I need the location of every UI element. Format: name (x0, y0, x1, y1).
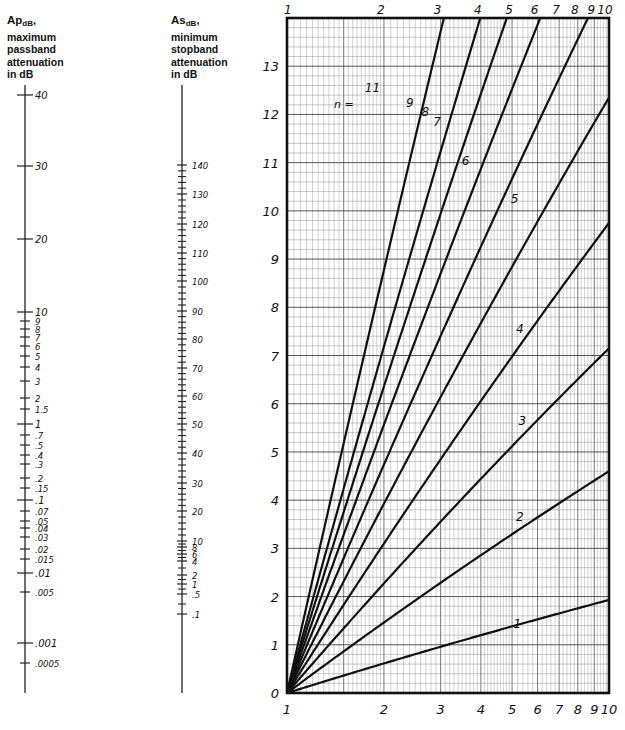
stopband-tick-label: 120 (192, 220, 208, 230)
passband-attenuation-scale: 40302010987654321.51.7.5.4.3.2.15.1.07.0… (17, 85, 59, 693)
passband-tick-label: .5 (35, 441, 43, 451)
y-tick-label: 4 (271, 493, 279, 508)
y-tick-label: 11 (262, 156, 279, 171)
passband-tick-label: .7 (35, 431, 44, 441)
y-tick-label: 6 (271, 397, 279, 412)
curve-label-n-1: 1 (513, 617, 521, 631)
x-bottom-tick-label: 1 (283, 702, 291, 717)
x-top-tick-label: 5 (505, 3, 513, 17)
curve-label-n-9: 9 (406, 96, 414, 110)
curve-label-n-11: 11 (365, 81, 380, 95)
curve-n-4 (287, 223, 609, 693)
stopband-tick-label: 90 (192, 307, 203, 317)
passband-tick-label: .015 (35, 555, 54, 565)
passband-tick-label: .02 (35, 545, 49, 555)
passband-tick-label: 4 (35, 363, 40, 373)
passband-tick-label: .001 (35, 638, 57, 649)
x-bottom-tick-label: 2 (380, 702, 388, 717)
x-top-tick-label: 6 (531, 3, 539, 17)
x-top-tick-label: 2 (377, 3, 385, 17)
x-bottom-tick-label: 9 (590, 702, 598, 717)
x-top-tick-label: 1 (284, 3, 292, 17)
y-tick-label: 10 (262, 204, 279, 219)
stopband-tick-label: 70 (192, 364, 203, 374)
x-top-tick-label: 8 (571, 3, 579, 17)
order-annotation: n = (334, 98, 354, 111)
x-top-tick-label: 4 (474, 3, 482, 17)
passband-tick-label: .1 (35, 495, 45, 506)
stopband-tick-label: 4 (192, 557, 197, 567)
stopband-tick-label: 60 (192, 392, 203, 402)
x-bottom-tick-label: 5 (508, 702, 516, 717)
passband-tick-label: .2 (35, 474, 43, 484)
y-tick-label: 7 (271, 349, 280, 364)
passband-tick-label: 3 (35, 377, 40, 387)
stopband-tick-label: 80 (192, 335, 203, 345)
x-bottom-tick-label: 7 (555, 702, 564, 717)
stopband-tick-label: 30 (192, 479, 203, 489)
stopband-tick-label: 1 (192, 580, 197, 590)
passband-tick-label: .3 (35, 460, 43, 470)
x-top-tick-label: 10 (597, 3, 613, 17)
curve-n-1 (287, 600, 609, 693)
curve-label-n-3: 3 (518, 414, 526, 428)
y-tick-label: 0 (271, 686, 279, 701)
passband-tick-label: 1 (35, 419, 41, 430)
passband-tick-label: 1.5 (35, 405, 49, 415)
curve-label-n-5: 5 (511, 192, 519, 206)
y-tick-label: 9 (271, 252, 279, 267)
passband-tick-label: .15 (35, 484, 49, 494)
nomograph-canvas: 40302010987654321.51.7.5.4.3.2.15.1.07.0… (0, 0, 625, 730)
stopband-tick-label: 100 (192, 277, 208, 287)
curve-n-2 (287, 471, 609, 693)
stopband-tick-label: 50 (192, 420, 203, 430)
stopband-tick-label: 130 (192, 190, 208, 200)
passband-tick-label: 40 (35, 90, 48, 101)
passband-tick-label: 2 (35, 394, 40, 404)
stopband-tick-label: 40 (192, 449, 203, 459)
stopband-tick-label: 110 (192, 249, 208, 259)
passband-tick-label: .01 (35, 568, 51, 579)
stopband-tick-label: .5 (192, 590, 200, 600)
passband-tick-label: 20 (35, 234, 48, 245)
stopband-tick-label: 20 (192, 507, 203, 517)
x-bottom-tick-label: 3 (436, 702, 444, 717)
passband-tick-label: 6 (35, 342, 41, 352)
y-tick-label: 3 (271, 541, 279, 556)
curve-label-n-2: 2 (516, 510, 524, 524)
passband-tick-label: 5 (35, 352, 40, 362)
x-bottom-tick-label: 8 (574, 702, 582, 717)
y-tick-label: 5 (271, 445, 279, 460)
y-tick-label: 12 (262, 107, 279, 122)
passband-tick-label: .0005 (35, 659, 59, 669)
y-tick-label: 1 (271, 638, 279, 653)
curve-label-n-4: 4 (516, 322, 524, 336)
x-bottom-tick-label: 10 (601, 702, 618, 717)
y-tick-label: 2 (271, 590, 279, 605)
x-top-tick-label: 3 (434, 3, 442, 17)
stopband-tick-label: 140 (192, 161, 208, 171)
curve-label-n-7: 7 (433, 115, 441, 129)
passband-tick-label: .07 (35, 507, 49, 517)
passband-tick-label: .005 (35, 588, 54, 598)
chart-grid (287, 18, 609, 693)
curve-label-n-6: 6 (462, 154, 470, 168)
curve-label-n-8: 8 (421, 105, 429, 119)
stopband-tick-label: .1 (192, 610, 200, 620)
y-tick-label: 8 (271, 300, 279, 315)
x-top-tick-label: 7 (552, 3, 560, 17)
x-top-tick-label: 9 (587, 3, 595, 17)
x-bottom-tick-label: 6 (533, 702, 541, 717)
stopband-attenuation-scale: 14013012011010090807060504030201086421.5… (177, 85, 208, 693)
passband-tick-label: 30 (35, 161, 48, 172)
x-bottom-tick-label: 4 (477, 702, 485, 717)
y-tick-label: 13 (262, 59, 279, 74)
passband-tick-label: .03 (35, 533, 49, 543)
